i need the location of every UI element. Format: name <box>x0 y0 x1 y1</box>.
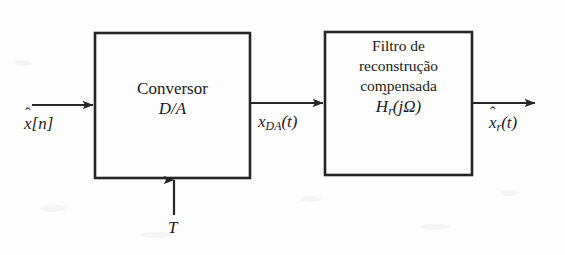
block-diagram: Conversor D/A Filtro de reconstrução com… <box>0 0 565 255</box>
intermediate-signal-label: xDA(t) <box>258 112 297 133</box>
da-converter-label: Conversor D/A <box>95 79 250 119</box>
reconstruction-filter-line3: compensada <box>325 76 472 96</box>
reconstruction-filter-formula: ̃Hr(jΩ) <box>325 96 472 120</box>
da-converter-line1: Conversor <box>95 79 250 99</box>
reconstruction-filter-label: Filtro de reconstrução compensada ̃Hr(jΩ… <box>325 36 472 120</box>
reconstruction-filter-line2: reconstrução <box>325 56 472 76</box>
reconstruction-filter-line1: Filtro de <box>325 36 472 56</box>
input-signal-label: ̂x[n] <box>24 114 53 134</box>
clock-signal-label: T <box>168 218 177 238</box>
output-base: x <box>489 113 497 132</box>
intermediate-subscript: DA <box>266 119 282 133</box>
formula-base: H <box>376 97 388 116</box>
output-signal-label: ̂xr(t) <box>489 113 517 134</box>
output-argument: (t) <box>501 113 517 132</box>
intermediate-argument: (t) <box>281 112 297 131</box>
input-argument: [n] <box>32 114 54 133</box>
input-base: x <box>24 114 32 133</box>
intermediate-base: x <box>258 112 266 131</box>
formula-argument: (jΩ) <box>393 97 421 116</box>
da-converter-line2: D/A <box>95 99 250 119</box>
